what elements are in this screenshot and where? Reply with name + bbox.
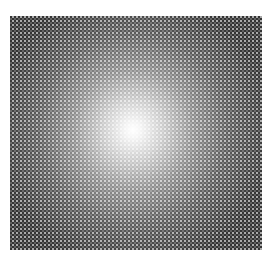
radial-glow: [10, 16, 262, 250]
image-canvas: [0, 0, 271, 270]
halftone-square: [10, 16, 262, 250]
